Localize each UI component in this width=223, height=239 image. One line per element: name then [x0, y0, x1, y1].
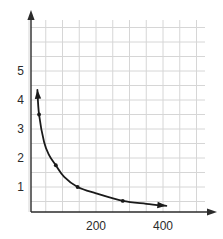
y-axis-tick-label: 5	[6, 65, 24, 77]
x-axis-tick-label: 400	[143, 220, 183, 232]
data-point-marker	[37, 113, 41, 117]
curve-line	[37, 90, 166, 206]
data-point-marker	[76, 185, 80, 189]
gridlines-vertical	[29, 20, 197, 212]
gridlines-horizontal	[31, 28, 205, 202]
y-axis-tick-label: 2	[6, 152, 24, 164]
y-axis-arrowhead-icon	[27, 10, 34, 20]
y-axis-tick-label: 3	[6, 123, 24, 135]
axes	[27, 10, 217, 216]
data-point-marker	[54, 163, 58, 167]
x-axis-tick-label: 200	[76, 220, 116, 232]
chart-plot	[0, 0, 223, 239]
y-axis-tick-label: 4	[6, 94, 24, 106]
x-axis-arrowhead-icon	[207, 208, 217, 215]
data-point-marker	[121, 199, 125, 203]
chart-container: 12345 200400	[0, 0, 223, 239]
y-axis-tick-label: 1	[6, 181, 24, 193]
